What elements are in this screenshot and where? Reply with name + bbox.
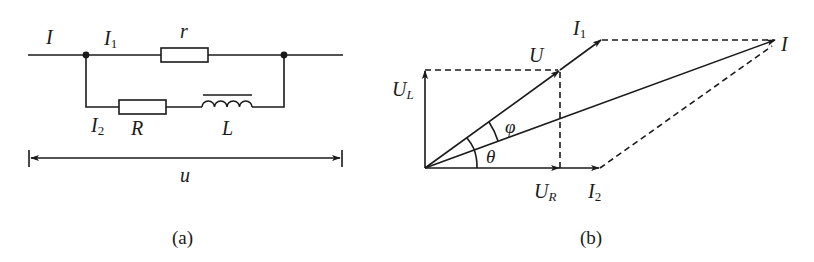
label-I: I bbox=[45, 26, 54, 48]
label-I-b: I bbox=[780, 33, 789, 55]
vector-I bbox=[425, 40, 775, 168]
caption-b: (b) bbox=[580, 227, 602, 249]
branch-wire-right bbox=[252, 55, 284, 107]
arc-phi-outer bbox=[489, 122, 498, 141]
resistor-r bbox=[161, 48, 208, 62]
caption-a: (a) bbox=[172, 227, 193, 249]
label-UL: UL bbox=[392, 78, 414, 102]
label-R: R bbox=[130, 117, 143, 139]
vector-I1 bbox=[560, 40, 601, 70]
arc-theta bbox=[474, 149, 477, 168]
label-u: u bbox=[180, 164, 190, 186]
label-I1-b: I1 bbox=[572, 17, 586, 41]
label-I2: I2 bbox=[90, 114, 104, 138]
arc-phi bbox=[467, 138, 474, 149]
label-L: L bbox=[221, 117, 233, 139]
label-I2-b: I2 bbox=[587, 180, 601, 204]
figure-canvas: I I1 r I2 R L u (a) I1 U I UL φ θ UR I2 … bbox=[0, 0, 814, 262]
branch-wire-left bbox=[86, 55, 119, 107]
inductor-L bbox=[202, 101, 252, 107]
label-UR: UR bbox=[534, 180, 556, 204]
phasor-diagram bbox=[425, 40, 775, 168]
label-phi: φ bbox=[505, 116, 516, 137]
label-I1: I1 bbox=[103, 27, 117, 51]
dash-I2-to-I bbox=[600, 46, 772, 168]
label-U-b: U bbox=[529, 44, 545, 66]
circuit-diagram bbox=[28, 48, 343, 167]
resistor-R bbox=[119, 100, 166, 114]
label-theta: θ bbox=[486, 146, 495, 167]
label-r: r bbox=[180, 20, 188, 42]
